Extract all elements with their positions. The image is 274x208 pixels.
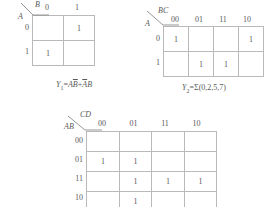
kmap-3-cell-3-0[interactable] [87,192,120,208]
kmap-2-row-headers: 0 1 [150,26,163,74]
kmap-3-row-header-11: 11 [69,169,86,188]
kmap-2-col-header-11: 11 [211,14,235,25]
kmap-1: B A 0 1 0 1 1 1 [32,15,95,66]
table-row: 1 1 [87,152,217,172]
kmap-3-col-header-00: 00 [86,118,118,129]
table-row: 1 [33,41,95,66]
kmap-3-col-header-11: 11 [149,118,181,129]
kmap-3-row-headers: 00 01 11 10 [69,131,86,207]
kmap-3-cell-3-3[interactable] [185,192,217,208]
kmap-3-row-variable-label: AB [64,122,74,131]
kmap-1-caption: Y1=AB+AB [56,80,92,91]
kmap-1-row-header-0: 0 [19,15,32,39]
kmap-2-caption: Y2=Σ(0,2,5,7) [182,83,226,94]
kmap-3-cell-3-2[interactable] [152,192,185,208]
kmap-3-cell-2-1[interactable]: 1 [120,172,152,192]
kmap-3-cell-3-1[interactable]: 1 [120,192,152,208]
kmap-3-column-headers: 00 01 11 10 [86,118,212,129]
kmap-3-cell-0-2[interactable] [152,132,185,152]
kmap-1-row-header-1: 1 [19,39,32,63]
kmap-1-caption-term2-b: B [87,80,92,89]
kmap-2-col-header-00: 00 [163,14,187,25]
table-row [87,132,217,152]
kmap-1-col-header-0: 0 [32,2,62,13]
kmap-2-caption-minterms: (0,2,5,7) [199,83,226,92]
kmap-3-cell-1-3[interactable] [185,152,217,172]
kmap-3-row-header-00: 00 [69,131,86,150]
kmap-2-col-header-10: 10 [235,14,259,25]
kmap-3: CD AB 00 01 11 10 00 01 11 10 1 1 1 1 1 [86,131,217,207]
kmap-3-cell-2-0[interactable] [87,172,120,192]
kmap-2-cell-1-3[interactable] [239,52,264,77]
kmap-3-grid: 1 1 1 1 1 1 [86,131,217,207]
kmap-2-row-header-0: 0 [150,26,163,50]
kmap-3-cell-0-1[interactable] [120,132,152,152]
kmap-1-cell-1-0[interactable]: 1 [33,41,64,66]
kmap-3-cell-2-2[interactable]: 1 [152,172,185,192]
kmap-1-col-header-1: 1 [62,2,92,13]
kmap-2-cell-0-1[interactable] [189,27,214,52]
kmap-2-cell-1-1[interactable]: 1 [189,52,214,77]
kmap-3-cell-1-2[interactable] [152,152,185,172]
kmap-3-col-header-10: 10 [181,118,212,129]
kmap-1-column-headers: 0 1 [32,2,92,13]
kmap-2-col-header-01: 01 [187,14,211,25]
kmap-2-column-headers: 00 01 11 10 [163,14,259,25]
kmap-3-cell-0-3[interactable] [185,132,217,152]
kmap-2-cell-1-2[interactable]: 1 [214,52,239,77]
kmap-2-cell-1-0[interactable] [164,52,189,77]
kmap-2-row-header-1: 1 [150,50,163,74]
kmap-3-cell-1-0[interactable]: 1 [87,152,120,172]
kmap-2: BC A 00 01 11 10 0 1 1 1 1 1 [163,26,264,77]
kmap-3-row-header-01: 01 [69,150,86,169]
kmap-2-cell-0-2[interactable] [214,27,239,52]
kmap-3-cell-1-1[interactable]: 1 [120,152,152,172]
kmap-3-row-header-10: 10 [69,188,86,207]
table-row: 1 [87,192,217,208]
kmap-3-col-header-01: 01 [118,118,149,129]
kmap-1-cell-0-1[interactable]: 1 [64,16,95,41]
kmap-2-cell-0-3[interactable]: 1 [239,27,264,52]
table-row: 1 1 1 [87,172,217,192]
kmap-3-cell-2-3[interactable]: 1 [185,172,217,192]
table-row: 1 1 [164,52,264,77]
kmap-1-cell-1-1[interactable] [64,41,95,66]
kmap-1-row-headers: 0 1 [19,15,32,63]
